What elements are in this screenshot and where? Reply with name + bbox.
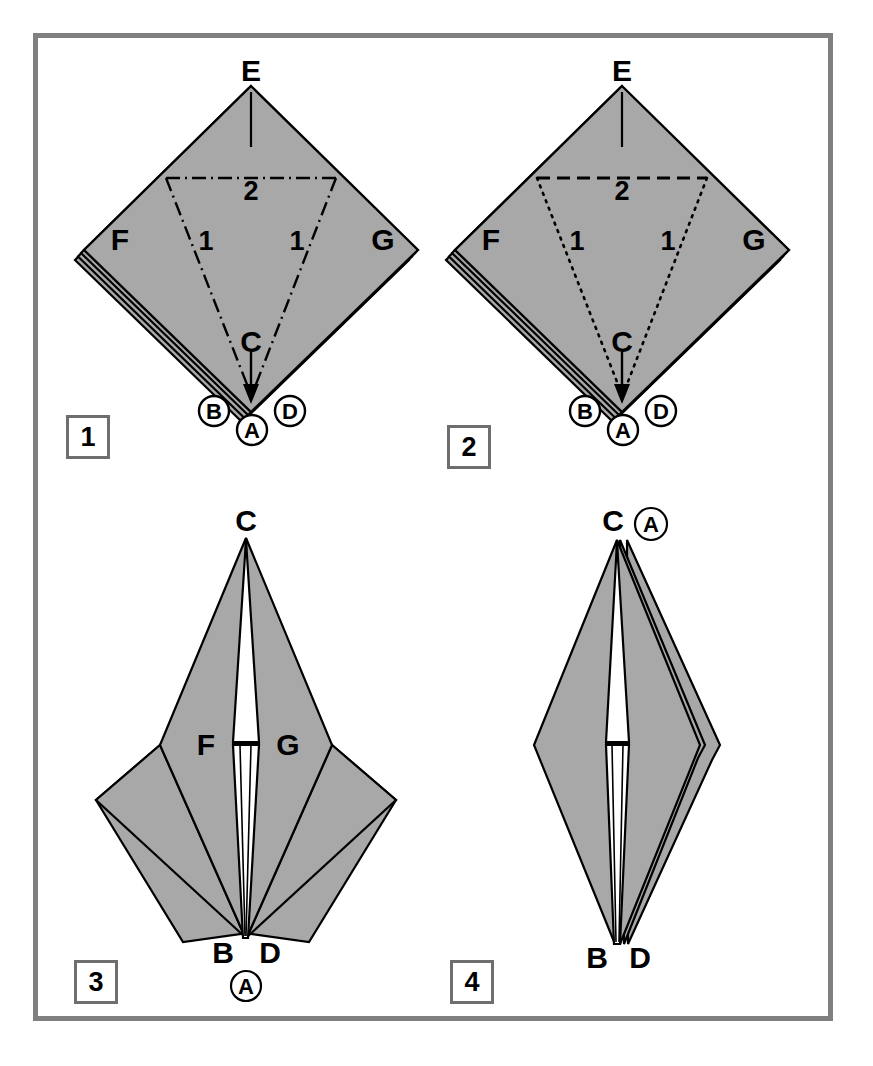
panel1-crease-label-1-left: 1 <box>198 226 213 256</box>
diagram-sheet: E F G C 2 1 1 B A D <box>0 0 873 1066</box>
svg-text:A: A <box>244 418 260 443</box>
panel1-crease-label-2: 2 <box>243 176 258 206</box>
panel1-label-E: E <box>241 54 261 87</box>
panel2-label-C: C <box>611 325 633 358</box>
step-number-box-2: 2 <box>447 425 491 469</box>
panel2-label-E: E <box>612 54 632 87</box>
panel2-crease-label-1-right: 1 <box>660 226 675 256</box>
panel2-label-G: G <box>742 223 765 256</box>
panel1-label-C: C <box>240 325 262 358</box>
panel1-circled-label-D: D <box>275 396 305 426</box>
panel3-label-B: B <box>212 936 234 969</box>
panel2-circled-label-A: A <box>608 415 638 445</box>
panel3-label-F: F <box>197 728 215 761</box>
panel2-crease-label-1-left: 1 <box>569 226 584 256</box>
panel-3-figure: C F G B D A <box>96 504 396 1001</box>
panel2-circled-label-D: D <box>646 396 676 426</box>
svg-text:A: A <box>238 974 254 999</box>
panel3-label-G: G <box>276 728 299 761</box>
step-number-box-1: 1 <box>66 415 110 459</box>
panel4-label-B: B <box>586 941 608 974</box>
svg-text:A: A <box>615 418 631 443</box>
panel2-crease-label-2: 2 <box>614 176 629 206</box>
origami-diagram-canvas: E F G C 2 1 1 B A D <box>0 0 873 1066</box>
panel-2-figure: E F G C 2 1 1 B A D <box>446 54 789 445</box>
svg-text:B: B <box>206 399 222 424</box>
svg-text:D: D <box>282 399 298 424</box>
panel4-body-left <box>534 540 617 944</box>
panel2-label-F: F <box>482 223 500 256</box>
panel1-label-G: G <box>371 223 394 256</box>
panel3-label-D: D <box>259 936 281 969</box>
panel4-label-C: C <box>602 504 624 537</box>
panel3-label-C: C <box>235 504 257 537</box>
panel4-circled-label-A: A <box>635 508 667 540</box>
panel2-circled-label-B: B <box>570 396 600 426</box>
svg-text:B: B <box>577 399 593 424</box>
panel3-circled-label-A: A <box>231 971 261 1001</box>
panel4-label-D: D <box>629 941 651 974</box>
panel-1-figure: E F G C 2 1 1 B A D <box>75 54 418 445</box>
panel1-circled-label-B: B <box>199 396 229 426</box>
step-number-box-3: 3 <box>74 960 118 1004</box>
svg-text:A: A <box>643 512 659 537</box>
panel-4-figure: C B D A <box>534 504 720 974</box>
panel1-crease-label-1-right: 1 <box>289 226 304 256</box>
svg-text:D: D <box>653 399 669 424</box>
step-number-box-4: 4 <box>450 960 494 1004</box>
panel1-label-F: F <box>111 223 129 256</box>
panel1-circled-label-A: A <box>237 415 267 445</box>
